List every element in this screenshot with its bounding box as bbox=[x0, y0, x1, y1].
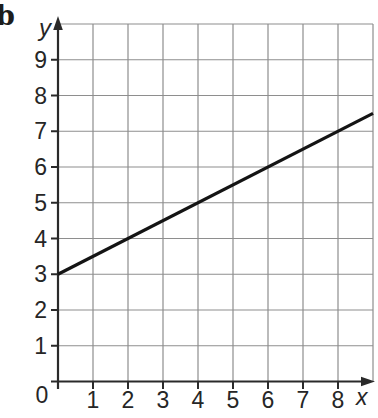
y-tick-label: 2 bbox=[34, 297, 47, 323]
x-tick-label: 1 bbox=[87, 387, 100, 413]
x-tick-label: 4 bbox=[192, 387, 205, 413]
y-tick-label: 3 bbox=[34, 261, 47, 287]
x-tick-label: 8 bbox=[332, 387, 345, 413]
x-tick-label: 0 bbox=[36, 382, 49, 408]
figure: b y x 123456789012345678 bbox=[0, 0, 378, 418]
x-tick-label: 6 bbox=[262, 387, 275, 413]
y-tick-label: 7 bbox=[34, 118, 47, 144]
y-tick-label: 4 bbox=[34, 226, 47, 252]
y-tick-label: 6 bbox=[34, 154, 47, 180]
x-tick-label: 2 bbox=[122, 387, 135, 413]
x-tick-label: 7 bbox=[297, 387, 310, 413]
y-tick-label: 5 bbox=[34, 190, 47, 216]
y-tick-label: 8 bbox=[34, 83, 47, 109]
x-tick-label: 3 bbox=[157, 387, 170, 413]
line-graph: 123456789012345678 bbox=[0, 0, 378, 418]
y-tick-label: 1 bbox=[34, 333, 47, 359]
y-axis-arrow-icon bbox=[53, 16, 63, 30]
y-tick-label: 9 bbox=[34, 47, 47, 73]
x-tick-label: 5 bbox=[227, 387, 240, 413]
data-line bbox=[58, 113, 373, 274]
